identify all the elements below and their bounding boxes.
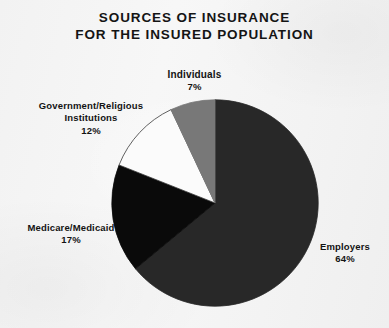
slice-label-employers-value: 64%	[303, 253, 387, 265]
chart-title-line-1: SOURCES OF INSURANCE	[0, 9, 389, 26]
slice-label-government: Government/Religious Institutions 12%	[16, 100, 166, 137]
slice-label-employers: Employers 64%	[303, 241, 387, 266]
pie-chart-figure: SOURCES OF INSURANCE FOR THE INSURED POP…	[0, 0, 389, 328]
slice-label-employers-name: Employers	[303, 241, 387, 253]
slice-label-medicare-name: Medicare/Medicaid	[3, 222, 139, 234]
slice-label-individuals-name: Individuals	[0, 69, 389, 81]
slice-label-medicare-value: 17%	[3, 234, 139, 246]
slice-label-government-name-line-1: Government/Religious	[16, 100, 166, 112]
chart-title: SOURCES OF INSURANCE FOR THE INSURED POP…	[0, 9, 389, 43]
slice-label-government-name-line-2: Institutions	[16, 112, 166, 124]
slice-label-individuals: Individuals 7%	[0, 69, 389, 94]
slice-label-government-value: 12%	[16, 125, 166, 137]
slice-label-medicare: Medicare/Medicaid 17%	[3, 222, 139, 247]
chart-title-line-2: FOR THE INSURED POPULATION	[0, 26, 389, 43]
slice-label-individuals-value: 7%	[0, 81, 389, 93]
